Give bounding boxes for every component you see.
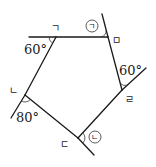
unknown-marker-b: ㄴ (89, 131, 101, 143)
angle-label-giyeok: 60° (24, 42, 47, 57)
unknown-marker-a: ㄱ (86, 20, 98, 32)
vertex-label-mieum: ㅁ (112, 35, 121, 46)
pentagon-diagram: ㄱ ㅁ ㄹ ㄷ ㄴ 60° 60° 80° ㄱ ㄴ (0, 0, 156, 167)
unknown-label-a: ㄱ (88, 22, 95, 31)
vertex-label-rieul: ㄹ (125, 94, 134, 105)
angle-label-rieul: 60° (119, 63, 142, 78)
angle-arc-digeut (83, 133, 85, 143)
vertex-label-digeut: ㄷ (60, 139, 69, 150)
edge-rieul-digeut (78, 90, 122, 138)
unknown-label-b: ㄴ (91, 133, 98, 142)
angle-arc-giyeok (49, 37, 53, 43)
angle-arc-mieum (101, 30, 106, 37)
vertex-label-nieun: ㄴ (9, 85, 18, 96)
extension-mieum (102, 14, 108, 37)
angle-label-nieun: 80° (16, 110, 39, 125)
vertex-label-giyeok: ㄱ (51, 23, 60, 34)
